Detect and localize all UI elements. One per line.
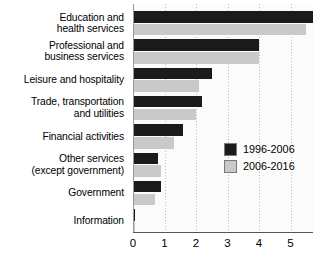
gridline — [291, 4, 292, 232]
bar-0 — [133, 153, 158, 165]
gridline — [228, 4, 229, 232]
bar-0 — [133, 39, 259, 51]
category-label: Information — [0, 215, 124, 227]
category-label: Leisure and hospitality — [0, 74, 124, 86]
bar-1 — [133, 80, 199, 92]
bar-0 — [133, 124, 183, 136]
category-label-line: Information — [0, 215, 124, 227]
legend-label: 2006-2016 — [243, 160, 295, 173]
bar-1 — [133, 24, 306, 36]
bar-1 — [133, 165, 161, 177]
category-label-line: Government — [0, 187, 124, 199]
category-axis-line — [133, 232, 313, 233]
category-label-line: Professional and — [0, 40, 124, 52]
bar-0 — [133, 181, 161, 193]
bar-0 — [133, 68, 212, 80]
bar-1 — [133, 137, 174, 149]
light-swatch — [224, 160, 237, 173]
x-axis-tick-label: 3 — [218, 236, 238, 250]
horizontal-grouped-bar-chart: Education andhealth servicesProfessional… — [0, 0, 313, 260]
x-axis-tick-label: 5 — [281, 236, 301, 250]
x-axis-tick-label: 1 — [155, 236, 175, 250]
gridline — [196, 4, 197, 232]
value-axis-line — [133, 4, 134, 232]
legend-item[interactable]: 2006-2016 — [224, 159, 295, 174]
bar-0 — [133, 11, 313, 23]
category-label-line: business services — [0, 51, 124, 63]
dark-swatch — [224, 143, 237, 156]
category-label: Trade, transportationand utilities — [0, 96, 124, 119]
category-label: Other services(except government) — [0, 153, 124, 176]
gridline — [259, 4, 260, 232]
category-label-line: Financial activities — [0, 131, 124, 143]
bar-0 — [133, 96, 202, 108]
bar-1 — [133, 52, 259, 64]
category-label-line: health services — [0, 23, 124, 35]
category-label-line: (except government) — [0, 165, 124, 177]
x-axis-tick-label: 0 — [123, 236, 143, 250]
category-label-line: Trade, transportation — [0, 96, 124, 108]
category-label: Education andhealth services — [0, 12, 124, 35]
category-label: Government — [0, 187, 124, 199]
chart-legend: 1996-20062006-2016 — [221, 140, 298, 178]
category-label-line: Leisure and hospitality — [0, 74, 124, 86]
category-label-line: Education and — [0, 12, 124, 24]
bar-1 — [133, 194, 155, 206]
x-axis-tick-label: 4 — [249, 236, 269, 250]
legend-label: 1996-2006 — [243, 143, 295, 156]
plot-area — [133, 4, 313, 232]
category-axis-labels: Education andhealth servicesProfessional… — [0, 0, 128, 232]
category-label-line: and utilities — [0, 108, 124, 120]
category-label: Financial activities — [0, 131, 124, 143]
bar-1 — [133, 109, 196, 121]
category-label-line: Other services — [0, 153, 124, 165]
x-axis-tick-label: 2 — [186, 236, 206, 250]
category-label: Professional andbusiness services — [0, 40, 124, 63]
legend-item[interactable]: 1996-2006 — [224, 142, 295, 157]
